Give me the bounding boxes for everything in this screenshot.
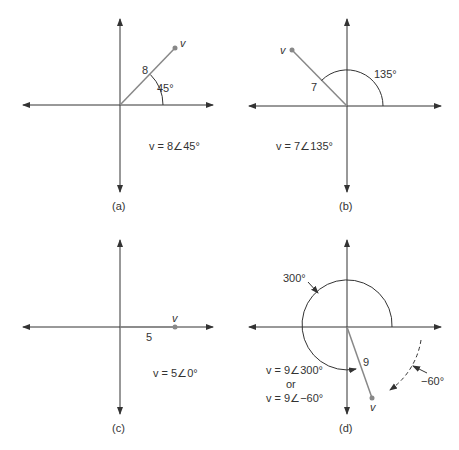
caption-b: (b) [339,200,352,212]
angle-arc-d-neg60 [390,340,421,390]
vector-label-b: v [280,44,287,56]
equation-c: v = 5∠0° [153,367,198,379]
axes-b [249,19,441,192]
vector-point-d [370,396,375,401]
magnitude-label-b: 7 [311,81,317,93]
equation-b: v = 7∠135° [276,140,333,152]
panel-d: v 9 300° −60° v = 9∠300° or v = 9∠−60° (… [249,240,444,434]
vector-b [292,50,347,106]
phasor-diagrams: v 8 45° v = 8∠45° (a) v 7 135° v = 7∠135… [0,0,459,450]
vector-point-b [290,48,295,53]
axes-d [249,240,441,414]
equation-d-or: or [286,378,296,390]
panel-a: v 8 45° v = 8∠45° (a) [23,19,213,212]
caption-c: (c) [112,422,125,434]
vector-point-c [173,325,178,330]
pointer-300 [308,282,318,293]
vector-label-c: v [172,312,179,324]
vector-point-a [173,46,178,51]
equation-d-2: v = 9∠−60° [266,392,323,404]
pointer-neg60 [413,366,427,373]
axes-c [23,240,213,414]
angle-label-d-neg60: −60° [421,375,444,387]
panel-b: v 7 135° v = 7∠135° (b) [249,19,441,212]
angle-label-a: 45° [157,82,174,94]
angle-label-d-300: 300° [283,272,306,284]
magnitude-label-c: 5 [146,331,152,343]
angle-label-b: 135° [374,68,397,80]
caption-a: (a) [112,200,125,212]
vector-label-d: v [370,401,377,413]
vector-label-a: v [180,37,187,49]
magnitude-label-a: 8 [142,64,148,76]
magnitude-label-d: 9 [363,356,369,368]
vector-a [120,48,175,105]
panel-c: v 5 v = 5∠0° (c) [23,240,213,434]
equation-a: v = 8∠45° [149,140,200,152]
caption-d: (d) [339,422,352,434]
equation-d-1: v = 9∠300° [266,364,323,376]
